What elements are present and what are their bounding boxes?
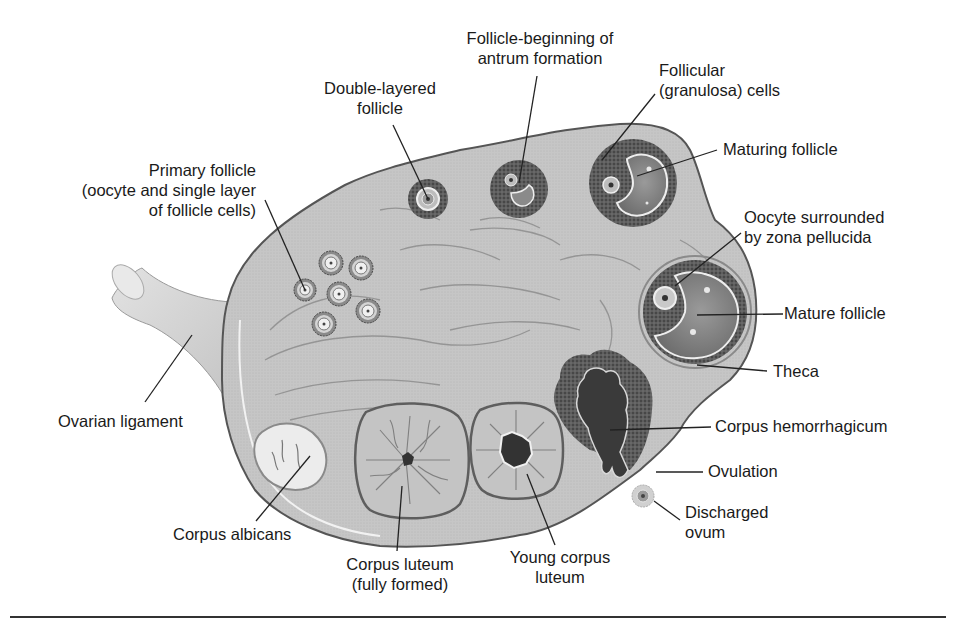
label-corpus-hemorrhagicum: Corpus hemorrhagicum (715, 416, 887, 436)
ovarian-ligament (106, 259, 236, 400)
label-antrum-formation: Follicle-beginning of antrum formation (440, 28, 640, 68)
label-theca: Theca (773, 361, 819, 381)
label-discharged-ovum: Discharged ovum (685, 502, 768, 542)
label-corpus-luteum-fully-formed: Corpus luteum (fully formed) (320, 554, 480, 594)
maturing-follicle (589, 139, 677, 227)
young-corpus-luteum (470, 403, 563, 499)
label-double-layered-follicle: Double-layered follicle (300, 78, 460, 118)
label-primary-follicle: Primary follicle (oocyte and single laye… (10, 160, 256, 220)
corpus-luteum-full (355, 403, 469, 518)
label-oocyte-zona-pellucida: Oocyte surrounded by zona pellucida (744, 207, 884, 247)
discharged-ovum (632, 485, 654, 507)
label-maturing-follicle: Maturing follicle (723, 139, 838, 159)
label-ovulation: Ovulation (708, 461, 778, 481)
label-young-corpus-luteum: Young corpus luteum (490, 547, 630, 587)
mature-follicle (639, 256, 751, 368)
ovary-diagram: Primary follicle (oocyte and single laye… (0, 0, 954, 634)
label-mature-follicle: Mature follicle (784, 303, 886, 323)
label-granulosa-cells: Follicular (granulosa) cells (659, 60, 819, 100)
label-ovarian-ligament: Ovarian ligament (58, 411, 183, 431)
antrum-forming-follicle (490, 160, 548, 218)
label-corpus-albicans: Corpus albicans (173, 524, 291, 544)
